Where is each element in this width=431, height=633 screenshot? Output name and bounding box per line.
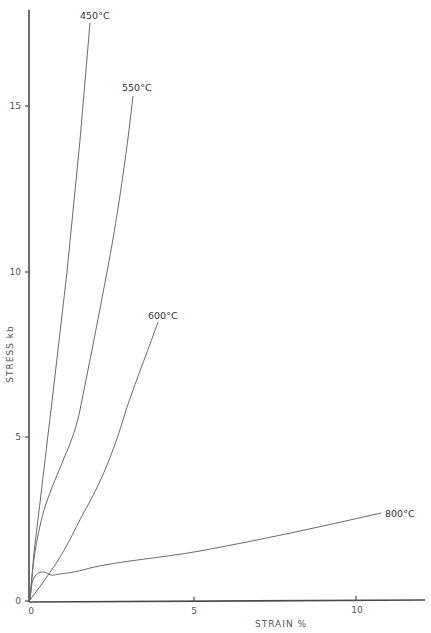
curve-450c (30, 23, 90, 600)
curve-550c (30, 96, 133, 600)
y-tick-5: 5 (15, 432, 21, 442)
x-axis (29, 600, 425, 602)
label-450c: 450°C (80, 10, 110, 21)
x-axis-title: STRAIN % (255, 619, 307, 629)
curve-600c (30, 322, 158, 600)
x-tick-5: 5 (191, 606, 197, 616)
label-600c: 600°C (148, 310, 178, 321)
label-550c: 550°C (122, 82, 152, 93)
y-tick-0: 0 (15, 596, 21, 606)
y-axis-title: STRESS kb (5, 325, 15, 382)
y-tick-15: 15 (10, 101, 21, 111)
label-800c: 800°C (385, 508, 415, 519)
curve-800c (30, 513, 381, 600)
stress-strain-chart: 15 10 5 0 0 5 10 STRAIN % STRESS kb 450°… (0, 0, 431, 633)
x-tick-0: 0 (28, 606, 34, 616)
y-tick-10: 10 (10, 267, 22, 277)
x-tick-10: 10 (351, 605, 363, 615)
x-ticks: 0 5 10 (28, 596, 363, 616)
